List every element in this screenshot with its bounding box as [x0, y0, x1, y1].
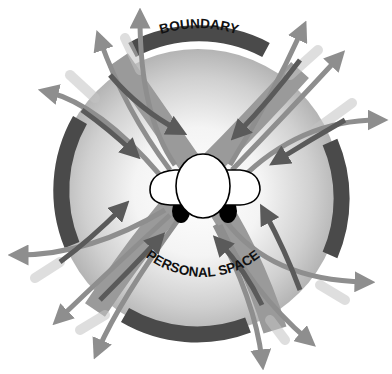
diagram-canvas: BOUNDARY PERSONAL SPACE [0, 0, 392, 374]
personal-space-diagram: BOUNDARY PERSONAL SPACE [0, 0, 392, 374]
boundary-arc-top [132, 33, 266, 50]
head [176, 154, 230, 218]
